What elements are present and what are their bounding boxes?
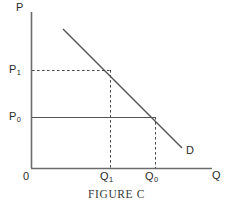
plot-area	[0, 0, 233, 214]
price-tick-p1-subscript: 1	[17, 68, 21, 77]
figure-caption: FIGURE C	[0, 188, 233, 200]
price-tick-p1-base: P	[9, 63, 17, 75]
origin-label: 0	[23, 171, 29, 182]
quantity-tick-q1-base: Q	[100, 170, 109, 182]
quantity-tick-q0: Q0	[145, 171, 158, 182]
economics-demand-figure: P Q 0 P1 P0 Q1 Q0 D FIGURE C	[0, 0, 233, 214]
quantity-tick-q1-subscript: 1	[109, 175, 113, 184]
x-axis-label: Q	[212, 170, 221, 181]
y-axis-label: P	[16, 2, 24, 13]
quantity-tick-q0-subscript: 0	[154, 175, 158, 184]
quantity-tick-q1: Q1	[100, 171, 113, 182]
price-tick-p1: P1	[9, 64, 21, 75]
quantity-tick-q0-base: Q	[145, 170, 154, 182]
price-tick-p0-base: P	[9, 110, 17, 122]
demand-curve-line	[63, 29, 182, 148]
price-tick-p0-subscript: 0	[17, 115, 21, 124]
price-tick-p0: P0	[9, 111, 21, 122]
demand-curve-label: D	[186, 145, 194, 156]
